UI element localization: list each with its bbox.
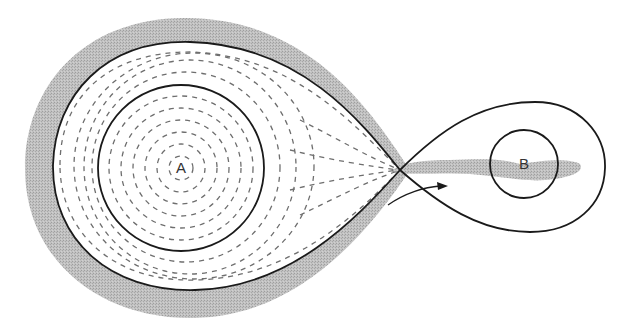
roche-lobe-a-fill (53, 42, 400, 290)
roche-lobe-diagram: A B (0, 0, 630, 335)
diagram-canvas (0, 0, 630, 335)
star-a-label: A (176, 160, 186, 175)
mass-transfer-stream (392, 159, 581, 180)
star-b-label: B (519, 156, 529, 171)
flow-arrow-head-icon (437, 182, 448, 190)
